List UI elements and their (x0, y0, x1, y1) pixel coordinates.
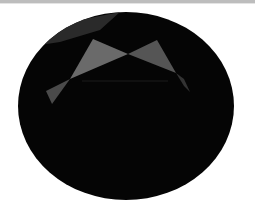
gemstone-image (0, 0, 255, 206)
